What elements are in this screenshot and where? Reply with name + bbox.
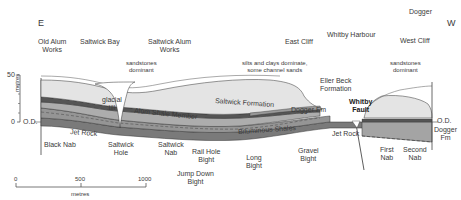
place-black-nab: Black Nab	[44, 141, 76, 149]
place-whitby-harbour: Whitby Harbour	[327, 31, 376, 39]
vertical-scale-label: metres	[14, 74, 21, 92]
west-cliff-saltwick	[364, 95, 432, 118]
place-saltwick-bay: Saltwick Bay	[80, 38, 120, 46]
place-rail-hole-bight: Rail Hole Bight	[192, 148, 220, 164]
place-first-nab: First Nab	[380, 146, 394, 162]
unit-eller-beck-formation: Eller Beck Formation	[320, 77, 352, 93]
place-east-cliff: East Cliff	[285, 38, 313, 46]
place-west-cliff: West Cliff	[400, 37, 430, 45]
note-sandstones-dominant-left: sandstones dominant	[126, 60, 157, 74]
geological-cross-section: E W Old Alum Works Saltwick Bay Saltwick…	[0, 0, 461, 200]
horizontal-scale	[16, 183, 146, 187]
unit-glacial-till: glacial till	[102, 96, 122, 112]
unit-jet-rock-right: Jet Rock	[332, 130, 359, 138]
place-old-alum-works: Old Alum Works	[38, 38, 66, 54]
unit-dogger-fm: Dogger Fm	[291, 106, 326, 114]
note-sandstones-dominant-right: sandstones dominant	[390, 60, 421, 74]
horizontal-scale-tick-500: 500	[75, 176, 85, 183]
place-saltwick-nab: Saltwick Nab	[158, 141, 184, 157]
place-second-nab: Second Nab	[403, 146, 427, 162]
horizontal-scale-tick-0: 0	[14, 176, 17, 183]
horizontal-scale-tick-1000: 1000	[138, 176, 151, 183]
east-direction-label: E	[38, 19, 44, 27]
horizontal-scale-label: metres	[71, 191, 89, 198]
datum-od-right: O.D.	[437, 117, 451, 125]
west-direction-label: W	[447, 19, 456, 27]
place-jump-down-bight: Jump Down Bight	[177, 170, 214, 186]
west-dark-band	[362, 119, 432, 122]
note-silts-and-clays: silts and clays dominate, some channel s…	[242, 60, 307, 74]
place-dogger: Dogger	[409, 8, 432, 16]
place-saltwick-hole: Saltwick Hole	[108, 141, 134, 157]
unit-whitby-fault: Whitby Fault	[349, 98, 372, 114]
unit-dogger-fm-right: Dogger Fm	[434, 126, 457, 142]
datum-od-left: O.D.	[23, 118, 37, 126]
place-gravel-bight: Gravel Bight	[298, 147, 319, 163]
vertical-scale-bottom: 0	[11, 118, 15, 126]
place-long-bight: Long Bight	[246, 154, 262, 170]
place-saltwick-alum-works: Saltwick Alum Works	[148, 38, 191, 54]
